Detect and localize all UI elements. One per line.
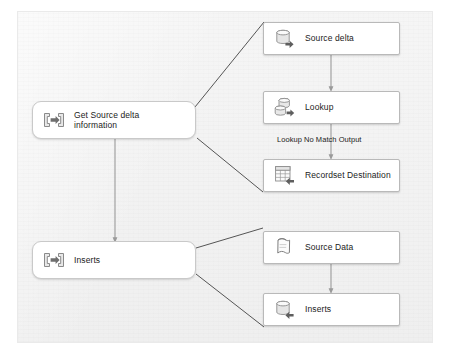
node-label: Recordset Destination: [305, 170, 391, 181]
lookup-transformation-icon: [272, 95, 298, 121]
node-get-source-delta-information[interactable]: Get Source delta information: [32, 101, 196, 139]
data-flow-task-icon: [41, 247, 67, 273]
node-source-delta[interactable]: Source delta: [263, 22, 400, 55]
screenshot-root: Get Source delta information Inserts Sou…: [0, 0, 451, 361]
node-label: Lookup: [305, 102, 334, 113]
node-label: Source delta: [305, 33, 354, 44]
recordset-destination-icon: [272, 163, 298, 189]
node-label: Get Source delta information: [74, 110, 139, 131]
data-flow-task-icon: [41, 107, 67, 133]
ole-db-source-icon: [272, 26, 298, 52]
node-lookup[interactable]: Lookup: [263, 91, 400, 124]
ole-db-destination-icon: [272, 297, 298, 323]
node-inserts-task[interactable]: Inserts: [32, 241, 196, 279]
node-label: Source Data: [305, 242, 353, 253]
node-inserts-destination[interactable]: Inserts: [263, 293, 400, 326]
node-label: Inserts: [74, 255, 100, 266]
node-label: Inserts: [305, 304, 331, 315]
node-source-data[interactable]: Source Data: [263, 231, 400, 264]
node-recordset-destination[interactable]: Recordset Destination: [263, 159, 400, 192]
edge-label-lookup-no-match-output[interactable]: Lookup No Match Output: [277, 135, 361, 144]
flat-file-source-icon: [272, 235, 298, 261]
